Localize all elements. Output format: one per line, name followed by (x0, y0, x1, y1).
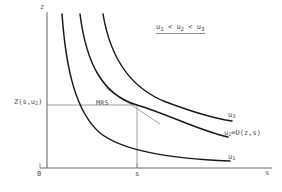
y-value-label-z: Z(s,u2) (14, 99, 42, 106)
curve-label-u2-equation: =U(z,s) (231, 129, 261, 137)
plot-canvas (0, 0, 282, 192)
inequality-u3-subscript: 3 (201, 26, 205, 32)
origin-label: 0 (37, 171, 41, 178)
y-value-label-tail: ) (38, 98, 42, 106)
inequality-operator-2: < (184, 23, 197, 31)
inequality-operator-1: < (164, 23, 177, 31)
curve-u1 (62, 14, 230, 161)
curve-label-u3: u3 (228, 112, 235, 119)
y-axis-label: z (40, 4, 44, 11)
indifference-curve-figure: z s 0 s Z(s,u2) MRS u1 < u2 < u3 u3 u2=U… (0, 0, 282, 192)
curve-label-u1: u1 (228, 154, 235, 161)
curve-u2 (80, 14, 228, 137)
curve-label-u3-subscript: 3 (232, 113, 235, 119)
mrs-annotation-label: MRS (96, 100, 109, 107)
curve-label-u2: u2=U(z,s) (224, 130, 261, 137)
x-tick-label-s: s (135, 171, 139, 178)
curve-label-u1-subscript: 1 (232, 155, 235, 161)
inequality-annotation: u1 < u2 < u3 (156, 23, 205, 34)
y-value-label-head: Z(s,u (14, 98, 35, 106)
x-axis-label: s (265, 170, 269, 177)
